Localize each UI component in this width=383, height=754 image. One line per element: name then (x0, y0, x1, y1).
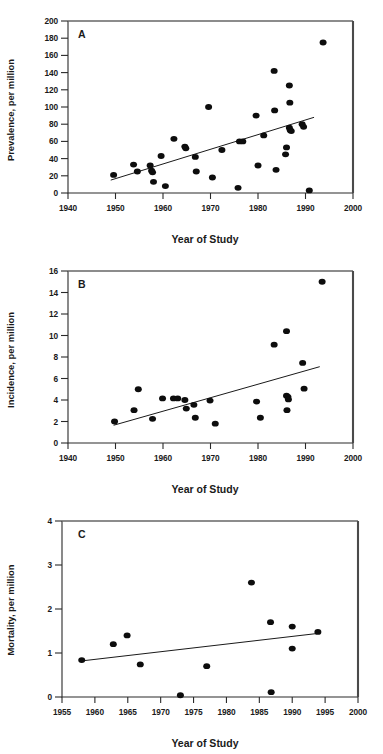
a-data-point (182, 145, 189, 151)
b-data-point (301, 386, 308, 392)
a-y-tick-label: 140 (44, 68, 58, 78)
a-data-point (271, 108, 278, 114)
a-data-point (300, 124, 307, 130)
a-data-point (273, 167, 280, 173)
panel-letter-b: B (78, 278, 86, 290)
a-data-point (320, 40, 327, 46)
a-x-tick-label: 1970 (201, 203, 220, 213)
b-x-tick-label: 1940 (59, 453, 78, 463)
c-trendline (82, 633, 320, 661)
b-data-point (319, 279, 326, 285)
a-data-point (130, 162, 137, 168)
b-x-tick-label: 1990 (296, 453, 315, 463)
c-data-point (289, 646, 296, 652)
a-y-tick-label: 60 (49, 136, 59, 146)
a-y-tick-label: 100 (44, 102, 58, 112)
a-data-point (286, 100, 293, 106)
a-data-point (205, 104, 212, 110)
a-x-tick-label: 1960 (154, 203, 173, 213)
a-data-point (170, 136, 177, 142)
c-y-tick-label: 4 (47, 516, 52, 526)
c-data-point (268, 689, 275, 695)
b-data-point (257, 415, 264, 421)
b-y-tick-label: 8 (53, 352, 58, 362)
c-axis-left-bottom (62, 521, 358, 697)
c-y-tick-label: 3 (47, 560, 52, 570)
c-y-tick-label: 2 (47, 604, 52, 614)
a-data-point (239, 139, 246, 145)
panel-letter-a: A (78, 28, 86, 40)
a-data-point (282, 151, 289, 157)
panel-b-y-axis-title: Incidence, per million (5, 312, 16, 408)
b-x-tick-label: 1950 (106, 453, 125, 463)
c-x-tick-label: 1985 (250, 707, 269, 717)
panel-c-y-axis-title: Mortality, per million (5, 564, 16, 655)
panel-a-prevalence: 0204060801001201401601802001940195019601… (0, 0, 383, 250)
a-data-point (158, 153, 165, 159)
a-x-tick-label: 1940 (59, 203, 78, 213)
a-data-point (253, 113, 260, 119)
a-data-point (306, 188, 313, 194)
panel-a-y-axis-title: Prevalence, per million (5, 59, 16, 161)
a-data-point (255, 163, 262, 169)
c-data-point (267, 619, 274, 625)
a-x-tick-label: 2000 (344, 203, 363, 213)
b-data-point (135, 386, 142, 392)
a-data-point (162, 183, 169, 189)
c-x-tick-label: 1960 (86, 707, 105, 717)
c-x-tick-label: 1975 (185, 707, 204, 717)
b-y-tick-label: 4 (53, 395, 58, 405)
panel-a-plot: 0204060801001201401601802001940195019601… (0, 0, 383, 250)
c-data-point (248, 580, 255, 586)
panel-b-incidence: 0246810121416194019501960197019801990200… (0, 250, 383, 500)
c-x-tick-label: 2000 (349, 707, 368, 717)
b-data-point (183, 406, 190, 412)
c-x-tick-label: 1955 (53, 707, 72, 717)
b-y-tick-label: 6 (53, 374, 58, 384)
three-panel-scatter-figure: 0204060801001201401601802001940195019601… (0, 0, 383, 754)
panel-c-plot: 0123419551960196519701975198019851990199… (0, 500, 383, 754)
a-y-tick-label: 120 (44, 85, 58, 95)
a-data-point (288, 128, 295, 134)
b-y-tick-label: 16 (49, 266, 59, 276)
c-data-point (137, 662, 144, 668)
panel-c-mortality: 0123419551960196519701975198019851990199… (0, 500, 383, 754)
a-data-point (150, 179, 157, 185)
c-data-point (203, 663, 210, 669)
c-x-tick-label: 1965 (119, 707, 138, 717)
c-data-point (177, 692, 184, 698)
a-y-tick-label: 180 (44, 33, 58, 43)
panel-b-plot: 0246810121416194019501960197019801990200… (0, 250, 383, 500)
a-y-tick-label: 0 (53, 188, 58, 198)
b-axis-left-bottom (68, 271, 353, 443)
a-data-point (260, 132, 267, 138)
panel-b-x-axis-title: Year of Study (171, 483, 238, 495)
a-data-point (149, 169, 156, 175)
c-data-point (314, 629, 321, 635)
b-data-point (212, 421, 219, 427)
a-data-point (110, 172, 117, 178)
panel-a-x-axis-title: Year of Study (171, 233, 238, 245)
b-y-tick-label: 10 (49, 331, 59, 341)
c-x-tick-label: 1990 (283, 707, 302, 717)
b-y-tick-label: 0 (53, 438, 58, 448)
b-x-tick-label: 1980 (249, 453, 268, 463)
b-data-point (299, 360, 306, 366)
a-data-point (286, 83, 293, 89)
a-data-point (147, 163, 154, 169)
b-data-point (190, 402, 197, 408)
c-data-point (110, 641, 117, 647)
b-data-point (111, 419, 118, 425)
a-x-tick-label: 1990 (296, 203, 315, 213)
b-data-point (159, 395, 166, 401)
c-y-tick-label: 0 (47, 692, 52, 702)
a-data-point (283, 145, 290, 151)
a-data-point (209, 175, 216, 181)
a-x-tick-label: 1980 (249, 203, 268, 213)
b-x-tick-label: 1970 (201, 453, 220, 463)
a-y-tick-label: 80 (49, 119, 59, 129)
b-data-point (174, 395, 181, 401)
a-y-tick-label: 200 (44, 16, 58, 26)
panel-letter-c: C (78, 528, 86, 540)
b-data-point (283, 407, 290, 413)
